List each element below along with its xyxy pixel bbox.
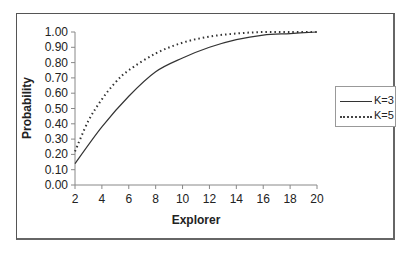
series-line-k3 [75, 32, 317, 164]
y-tick-label: 0.10 [45, 163, 69, 177]
x-tick-label: 12 [203, 192, 217, 206]
x-tick-label: 10 [176, 192, 190, 206]
y-axis: 0.000.100.200.300.400.500.600.700.800.90… [45, 25, 75, 192]
y-tick-label: 0.30 [45, 132, 69, 146]
y-tick-label: 0.00 [45, 178, 69, 192]
y-tick-label: 1.00 [45, 25, 69, 39]
x-tick-label: 14 [230, 192, 244, 206]
y-tick-label: 0.20 [45, 147, 69, 161]
chart-legend: K=3 K=5 [335, 86, 396, 127]
y-tick-label: 0.80 [45, 56, 69, 70]
series-line-k5 [75, 32, 317, 151]
x-tick-label: 8 [152, 192, 159, 206]
legend-label: K=3 [374, 94, 394, 106]
x-tick-label: 20 [310, 192, 324, 206]
y-tick-label: 0.50 [45, 102, 69, 116]
y-tick-label: 0.40 [45, 117, 69, 131]
x-tick-label: 4 [99, 192, 106, 206]
solid-line-icon [340, 101, 372, 102]
x-axis: 2468101214161820 [72, 185, 324, 206]
y-tick-label: 0.60 [45, 86, 69, 100]
dotted-line-icon [340, 116, 372, 118]
series-lines [75, 32, 317, 164]
x-axis-title: Explorer [172, 213, 221, 227]
line-chart: 0.000.100.200.300.400.500.600.700.800.90… [0, 0, 411, 256]
x-tick-label: 18 [283, 192, 297, 206]
y-tick-label: 0.90 [45, 40, 69, 54]
x-tick-label: 6 [125, 192, 132, 206]
y-tick-label: 0.70 [45, 71, 69, 85]
x-tick-label: 16 [257, 192, 271, 206]
legend-label: K=5 [374, 109, 394, 121]
y-axis-title: Probability [20, 77, 34, 139]
x-tick-label: 2 [72, 192, 79, 206]
